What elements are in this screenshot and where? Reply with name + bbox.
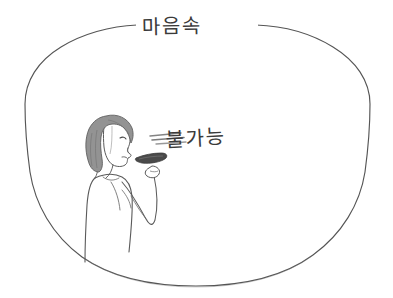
caption-top-text: 마음속 [142, 9, 202, 39]
caption-center-text: 불가능 [165, 120, 226, 152]
sketch-canvas: 마음속 불가능 [0, 0, 393, 298]
